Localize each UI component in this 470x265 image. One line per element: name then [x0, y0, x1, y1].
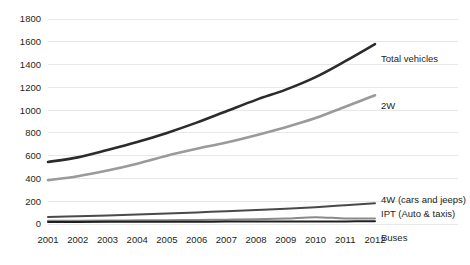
- line-chart: 020040060080010001200140016001800 200120…: [0, 0, 470, 265]
- x-axis-tick-label: 2001: [37, 234, 58, 245]
- y-axis-tick-label: 600: [25, 150, 41, 161]
- series-line-ipt-auto-taxis: [48, 217, 375, 221]
- y-axis-tick-label: 1400: [20, 59, 41, 70]
- y-axis-tick-label: 1200: [20, 82, 41, 93]
- x-axis-tick-label: 2011: [335, 234, 355, 245]
- y-axis-tick-label: 200: [25, 196, 41, 207]
- x-axis-tick-label: 2010: [305, 234, 326, 245]
- x-axis-tick-label: 2005: [156, 234, 177, 245]
- x-axis-tick-label: 2003: [97, 234, 118, 245]
- series-line-total-vehicles: [48, 44, 375, 162]
- x-axis-tick-label: 2002: [67, 234, 88, 245]
- y-axis-tick-label: 1800: [20, 13, 41, 24]
- chart-container: 020040060080010001200140016001800 200120…: [0, 0, 470, 265]
- series-label-4w-cars-and-jeeps: 4W (cars and jeeps): [381, 194, 466, 205]
- y-axis-tick-label: 800: [25, 127, 41, 138]
- x-axis-tick-label: 2006: [186, 234, 207, 245]
- series-label-total-vehicles: Total vehicles: [381, 53, 438, 64]
- series-label-buses: Buses: [381, 232, 408, 243]
- series-label-2w: 2W: [381, 100, 395, 111]
- x-axis-tick-label: 2008: [246, 234, 267, 245]
- y-axis-tick-label: 0: [36, 218, 41, 229]
- y-axis-tick-label: 400: [25, 173, 41, 184]
- x-axis-tick-labels: 2001200220032004200520062007200820092010…: [37, 234, 385, 245]
- y-axis-tick-labels: 020040060080010001200140016001800: [20, 13, 41, 229]
- y-axis-tick-label: 1600: [20, 36, 41, 47]
- series-label-ipt-auto-taxis: IPT (Auto & taxis): [381, 208, 455, 219]
- series-labels-group: Total vehicles2W4W (cars and jeeps)IPT (…: [381, 53, 466, 243]
- series-line-2w: [48, 95, 375, 180]
- x-axis-tick-label: 2009: [275, 234, 296, 245]
- series-line-buses: [48, 221, 375, 222]
- x-axis-tick-label: 2007: [216, 234, 237, 245]
- x-axis-tick-label: 2004: [127, 234, 148, 245]
- y-axis-tick-label: 1000: [20, 105, 41, 116]
- series-line-4w-cars-and-jeeps: [48, 203, 375, 217]
